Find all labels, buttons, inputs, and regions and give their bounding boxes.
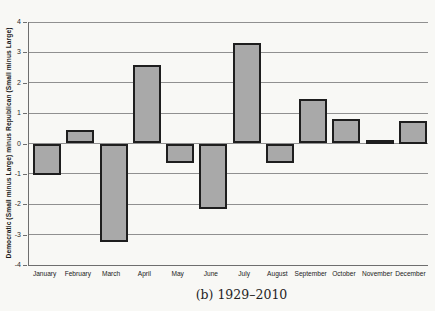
y-tick-label--4: -4: [5, 261, 21, 269]
gridline-y1: [29, 113, 428, 114]
x-tick-label-july: July: [238, 269, 250, 278]
gridline-y-3: [29, 234, 428, 235]
x-tick-label-december: December: [395, 269, 425, 278]
gridline-y-2: [29, 204, 428, 205]
gridline-y3: [29, 52, 428, 53]
bar-november: [366, 140, 394, 144]
bar-march: [100, 144, 128, 243]
y-tick-mark: [23, 174, 27, 175]
gridline-y2: [29, 82, 428, 83]
y-tick-mark: [23, 83, 27, 84]
bar-october: [332, 119, 360, 143]
x-tick-label-june: June: [204, 269, 218, 278]
bar-july: [233, 43, 261, 143]
y-tick-mark: [23, 52, 27, 53]
y-tick-label--2: -2: [5, 200, 21, 208]
y-tick-mark: [23, 235, 27, 236]
y-tick-mark: [23, 144, 27, 145]
plot-area: [28, 22, 428, 266]
y-tick-label-2: 2: [5, 79, 21, 87]
y-tick-label-4: 4: [5, 18, 21, 26]
y-tick-label-1: 1: [5, 109, 21, 117]
x-tick-label-january: January: [33, 269, 56, 278]
bar-january: [33, 144, 61, 176]
bar-february: [66, 130, 94, 144]
x-tick-label-april: April: [138, 269, 151, 278]
y-tick-mark: [23, 265, 27, 266]
x-tick-label-march: March: [102, 269, 120, 278]
x-tick-label-november: November: [362, 269, 392, 278]
bar-june: [199, 144, 227, 209]
x-tick-label-september: September: [294, 269, 326, 278]
bar-april: [133, 65, 161, 144]
y-tick-mark: [23, 204, 27, 205]
bar-may: [166, 144, 194, 164]
gridline-y-1: [29, 173, 428, 174]
figure-caption: (b) 1929–2010: [48, 287, 435, 302]
y-tick-label--1: -1: [5, 170, 21, 178]
x-tick-label-february: February: [65, 269, 91, 278]
bar-august: [266, 144, 294, 164]
scanned-chart-page: Democratic (Small minus Large) minus Rep…: [0, 0, 435, 311]
y-tick-label-3: 3: [5, 48, 21, 56]
x-tick-label-may: May: [171, 269, 183, 278]
y-tick-label--3: -3: [5, 231, 21, 239]
y-tick-label-0: 0: [5, 140, 21, 148]
bar-december: [399, 121, 427, 144]
y-tick-mark: [23, 113, 27, 114]
x-tick-label-august: August: [267, 269, 288, 278]
y-tick-mark: [23, 22, 27, 23]
bar-september: [299, 99, 327, 143]
gridline-y4: [29, 22, 428, 23]
x-tick-label-october: October: [332, 269, 355, 278]
